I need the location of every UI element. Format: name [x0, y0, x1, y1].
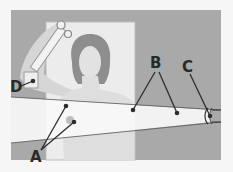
- face: [79, 46, 101, 78]
- diagram-figure: D B C A: [0, 0, 233, 172]
- label-b: B: [150, 54, 161, 72]
- diagram-canvas: D B C A: [0, 0, 233, 172]
- label-d: D: [10, 78, 22, 96]
- label-c: C: [182, 58, 193, 76]
- label-a: A: [30, 148, 42, 166]
